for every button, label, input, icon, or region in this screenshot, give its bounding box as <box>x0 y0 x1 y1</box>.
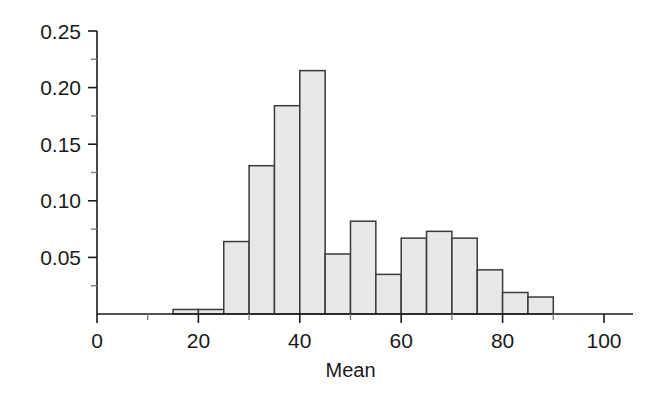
histogram-bar <box>528 297 553 314</box>
x-axis-tick-label: 20 <box>187 329 210 352</box>
histogram-figure: 0.050.100.150.200.25020406080100 Mean <box>0 0 659 401</box>
x-axis-tick-label: 60 <box>390 329 413 352</box>
histogram-bar <box>224 242 249 314</box>
histogram-plot-area: 0.050.100.150.200.25020406080100 <box>0 0 659 401</box>
y-axis-tick-label: 0.20 <box>40 76 81 99</box>
x-axis-tick-label: 40 <box>288 329 311 352</box>
histogram-bar <box>503 292 528 314</box>
histogram-bar <box>351 221 376 314</box>
y-axis-tick-label: 0.05 <box>40 246 81 269</box>
histogram-bar <box>376 274 401 314</box>
y-axis-tick-label: 0.10 <box>40 189 81 212</box>
histogram-bar <box>249 166 274 314</box>
x-axis-tick-label: 100 <box>586 329 621 352</box>
x-axis-tick-label: 80 <box>491 329 514 352</box>
x-axis-tick-label: 0 <box>91 329 103 352</box>
y-axis-tick-label: 0.15 <box>40 133 81 156</box>
histogram-bar <box>274 106 299 314</box>
histogram-bar <box>452 238 477 314</box>
histogram-bar <box>300 71 325 314</box>
histogram-bar <box>477 270 502 314</box>
histogram-bar <box>325 254 350 314</box>
histogram-bar <box>427 231 452 314</box>
y-axis-tick-label: 0.25 <box>40 20 81 43</box>
histogram-bar <box>401 238 426 314</box>
